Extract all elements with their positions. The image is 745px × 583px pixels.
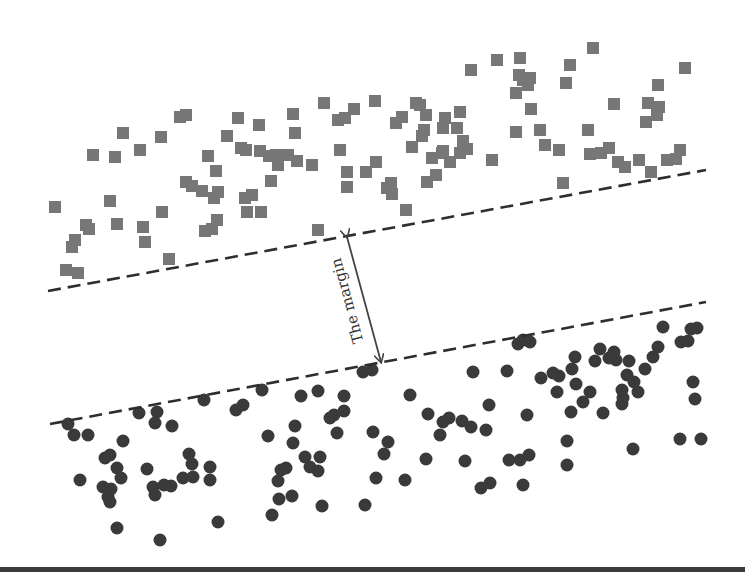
circle-point	[623, 355, 636, 368]
circle-point	[691, 322, 704, 335]
square-point	[652, 79, 664, 91]
circle-point	[610, 354, 623, 367]
circle-point	[312, 465, 325, 478]
square-point	[603, 142, 615, 154]
square-point	[420, 109, 432, 121]
circle-point	[565, 406, 578, 419]
square-point	[386, 188, 398, 200]
circle-point	[68, 429, 81, 442]
square-point	[341, 166, 353, 178]
square-point	[416, 130, 428, 142]
circle-point	[689, 393, 702, 406]
circle-point	[316, 500, 329, 513]
circle-point	[687, 376, 700, 389]
square-point	[291, 155, 303, 167]
square-point	[525, 103, 537, 115]
square-point	[539, 139, 551, 151]
square-point	[253, 119, 265, 131]
square-point	[287, 108, 299, 120]
square-point	[109, 151, 121, 163]
square-point	[202, 150, 214, 162]
square-point	[265, 175, 277, 187]
circle-point	[299, 451, 312, 464]
square-point	[437, 145, 449, 157]
circle-point	[295, 390, 308, 403]
circle-point	[674, 433, 687, 446]
circle-point	[434, 429, 447, 442]
circle-point	[166, 420, 179, 433]
square-point	[117, 127, 129, 139]
circle-point	[399, 474, 412, 487]
square-point	[454, 106, 466, 118]
circle-point	[141, 463, 154, 476]
svm-margin-diagram: The margin	[0, 0, 745, 583]
circle-point	[378, 448, 391, 461]
circle-point	[82, 429, 95, 442]
circle-point	[465, 421, 478, 434]
square-point	[208, 192, 220, 204]
class-a-squares	[49, 42, 691, 279]
circle-point	[422, 408, 435, 421]
circle-point	[212, 516, 225, 529]
circle-point	[149, 417, 162, 430]
circle-point	[561, 459, 574, 472]
circle-point	[404, 389, 417, 402]
square-point	[370, 156, 382, 168]
circle-point	[359, 499, 372, 512]
square-point	[486, 154, 498, 166]
square-point	[491, 54, 503, 66]
square-point	[163, 253, 175, 265]
square-point	[465, 64, 477, 76]
circle-point	[420, 453, 433, 466]
circle-point	[74, 474, 87, 487]
circle-point	[566, 363, 579, 376]
square-point	[312, 224, 324, 236]
circle-point	[547, 367, 560, 380]
circle-point	[682, 335, 695, 348]
square-point	[111, 218, 123, 230]
square-point	[87, 149, 99, 161]
circle-point	[324, 412, 337, 425]
circle-point	[338, 390, 351, 403]
circle-point	[480, 424, 493, 437]
circle-point	[149, 489, 162, 502]
circle-point	[551, 386, 564, 399]
circle-point	[367, 426, 380, 439]
square-point	[49, 201, 61, 213]
square-point	[306, 159, 318, 171]
circle-point	[524, 336, 537, 349]
circle-point	[286, 490, 299, 503]
square-point	[514, 52, 526, 64]
circle-point	[503, 454, 516, 467]
square-point	[155, 131, 167, 143]
square-point	[400, 204, 412, 216]
circle-point	[652, 341, 665, 354]
circle-point	[186, 458, 199, 471]
circle-point	[104, 449, 117, 462]
square-point	[670, 153, 682, 165]
square-point	[240, 144, 252, 156]
square-point	[640, 116, 652, 128]
circle-point	[589, 355, 602, 368]
square-point	[255, 206, 267, 218]
square-point	[134, 144, 146, 156]
circle-point	[111, 522, 124, 535]
square-point	[522, 79, 534, 91]
circle-point	[204, 461, 217, 474]
circle-point	[501, 365, 514, 378]
square-point	[642, 97, 654, 109]
square-point	[60, 264, 72, 276]
circle-point	[115, 472, 128, 485]
square-point	[318, 97, 330, 109]
circle-point	[483, 399, 496, 412]
square-point	[69, 234, 81, 246]
circle-point	[154, 534, 167, 547]
circle-point	[151, 406, 164, 419]
square-point	[612, 156, 624, 168]
circle-point	[104, 496, 117, 509]
square-point	[439, 112, 451, 124]
square-point	[406, 141, 418, 153]
square-point	[653, 101, 665, 113]
circle-point	[695, 433, 708, 446]
square-point	[232, 112, 244, 124]
